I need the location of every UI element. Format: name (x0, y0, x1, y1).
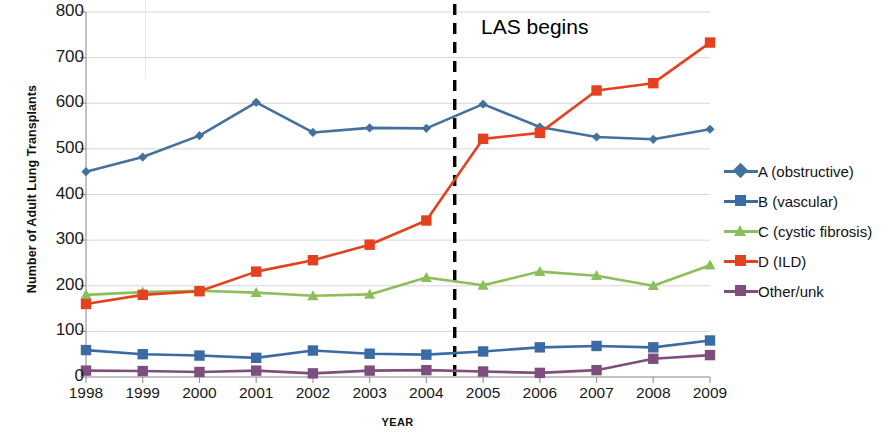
data-point-square (308, 345, 318, 355)
x-tick-label: 1998 (58, 384, 114, 402)
legend-label: Other/unk (758, 284, 824, 299)
data-point-square (421, 365, 431, 375)
x-tick-label: 2003 (342, 384, 398, 402)
data-point-diamond (592, 132, 601, 141)
data-point-square (194, 367, 204, 377)
data-point-square (138, 290, 148, 300)
data-point-square (308, 368, 318, 378)
data-point-square (308, 255, 318, 265)
data-point-square (364, 365, 374, 375)
x-tick-label: 2009 (682, 384, 738, 402)
legend-label: A (obstructive) (758, 164, 854, 179)
legend-key-icon (724, 251, 758, 271)
y-tick-label: 300 (36, 229, 84, 249)
y-tick-label: 400 (36, 184, 84, 204)
data-point-square (138, 366, 148, 376)
series-line (86, 341, 710, 358)
data-point-square (194, 286, 204, 296)
data-point-square (251, 365, 261, 375)
y-tick-label: 700 (36, 47, 84, 67)
las-begins-annotation: LAS begins (481, 15, 588, 39)
data-point-diamond (705, 125, 714, 134)
data-point-square (421, 349, 431, 359)
legend-key-icon (724, 161, 758, 181)
y-tick-label: 100 (36, 320, 84, 340)
data-point-square (138, 349, 148, 359)
data-point-square (705, 350, 715, 360)
legend-item-0[interactable]: A (obstructive) (724, 156, 891, 186)
legend-item-1[interactable]: B (vascular) (724, 186, 891, 216)
x-tick-label: 2006 (512, 384, 568, 402)
chart-legend: A (obstructive)B (vascular)C (cystic fib… (724, 156, 891, 306)
x-tick-label: 2000 (171, 384, 227, 402)
data-point-square (421, 215, 431, 225)
legend-key-icon (724, 191, 758, 211)
x-tick-label: 2008 (625, 384, 681, 402)
legend-label: B (vascular) (758, 194, 838, 209)
data-point-square (251, 353, 261, 363)
data-point-diamond (422, 124, 431, 133)
x-tick-label: 2001 (228, 384, 284, 402)
data-point-square (535, 368, 545, 378)
data-point-diamond (308, 128, 317, 137)
legend-key-icon (724, 281, 758, 301)
x-tick-label: 2004 (398, 384, 454, 402)
data-point-square (535, 342, 545, 352)
data-point-square (648, 354, 658, 364)
x-tick-label: 2007 (569, 384, 625, 402)
y-tick-label: 600 (36, 92, 84, 112)
x-tick-label: 1999 (115, 384, 171, 402)
data-point-square (648, 342, 658, 352)
data-point-square (194, 350, 204, 360)
data-point-square (478, 134, 488, 144)
legend-key-icon (724, 221, 758, 241)
lung-transplant-line-chart: Number of Adult Lung Transplants 0100200… (0, 0, 891, 435)
x-tick-label: 2002 (285, 384, 341, 402)
x-axis-title: YEAR (85, 416, 710, 428)
series-line (86, 43, 710, 304)
data-point-square (364, 239, 374, 249)
data-point-square (478, 366, 488, 376)
data-point-square (478, 346, 488, 356)
x-tick-label: 2005 (455, 384, 511, 402)
data-point-square (705, 37, 715, 47)
data-point-diamond (649, 135, 658, 144)
series-1 (81, 335, 715, 363)
data-point-square (364, 349, 374, 359)
data-point-square (251, 266, 261, 276)
data-point-square (591, 85, 601, 95)
legend-item-2[interactable]: C (cystic fibrosis) (724, 216, 891, 246)
y-tick-label: 800 (36, 1, 84, 21)
legend-item-3[interactable]: D (ILD) (724, 246, 891, 276)
data-point-square (535, 128, 545, 138)
y-axis-tick-labels: 0100200300400500600700800 (36, 0, 84, 435)
y-tick-label: 500 (36, 138, 84, 158)
legend-label: C (cystic fibrosis) (758, 224, 872, 239)
data-point-diamond (138, 152, 147, 161)
data-point-triangle (704, 260, 715, 270)
data-point-square (591, 341, 601, 351)
y-tick-label: 200 (36, 275, 84, 295)
series-line (86, 355, 710, 373)
data-point-diamond (478, 100, 487, 109)
series-3 (81, 37, 715, 309)
series-line (86, 102, 710, 171)
series-2 (80, 260, 715, 301)
legend-label: D (ILD) (758, 254, 806, 269)
data-point-square (705, 335, 715, 345)
data-point-square (591, 365, 601, 375)
series-0 (81, 98, 714, 177)
legend-item-4[interactable]: Other/unk (724, 276, 891, 306)
data-point-square (648, 78, 658, 88)
data-point-diamond (365, 123, 374, 132)
y-tick-label: 0 (36, 366, 84, 386)
